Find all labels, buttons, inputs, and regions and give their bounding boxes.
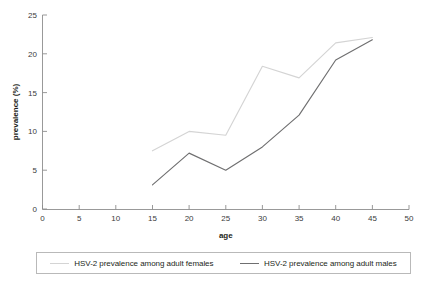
y-tick-label: 0 (33, 205, 38, 214)
y-tick-label: 10 (28, 127, 37, 136)
x-tick-label: 20 (185, 214, 194, 223)
y-tick-label: 5 (33, 166, 38, 175)
chart-container: 0 5 10 15 20 25 0 5 10 15 20 (0, 0, 424, 283)
x-axis-ticks (43, 205, 410, 210)
chart-legend: HSV-2 prevalence among adult females HSV… (36, 252, 411, 274)
legend-swatch-females-icon (50, 263, 69, 264)
x-axis-tick-labels: 0 5 10 15 20 25 30 35 40 45 50 (40, 214, 414, 223)
x-tick-label: 50 (405, 214, 414, 223)
x-tick-label: 35 (295, 214, 304, 223)
x-tick-label: 10 (111, 214, 120, 223)
y-axis-ticks (43, 15, 48, 209)
x-tick-label: 15 (148, 214, 157, 223)
y-axis-tick-labels: 0 5 10 15 20 25 (28, 11, 37, 214)
x-tick-label: 40 (331, 214, 340, 223)
x-tick-label: 5 (77, 214, 82, 223)
legend-label-females: HSV-2 prevalence among adult females (74, 259, 213, 268)
x-axis-title: age (219, 231, 233, 240)
series-line-females (152, 38, 372, 151)
legend-label-males: HSV-2 prevalence among adult males (264, 259, 397, 268)
legend-swatch-males-icon (240, 263, 259, 264)
legend-item-females: HSV-2 prevalence among adult females (50, 259, 213, 268)
y-axis-title: prevalence (%) (11, 83, 20, 140)
x-tick-label: 30 (258, 214, 267, 223)
line-chart-plot: 0 5 10 15 20 25 0 5 10 15 20 (0, 0, 424, 283)
x-tick-label: 45 (368, 214, 377, 223)
legend-item-males: HSV-2 prevalence among adult males (240, 259, 397, 268)
y-tick-label: 15 (28, 89, 37, 98)
x-tick-label: 0 (40, 214, 45, 223)
y-tick-label: 25 (28, 11, 37, 20)
series-line-males (152, 40, 372, 185)
x-tick-label: 25 (221, 214, 230, 223)
y-tick-label: 20 (28, 50, 37, 59)
